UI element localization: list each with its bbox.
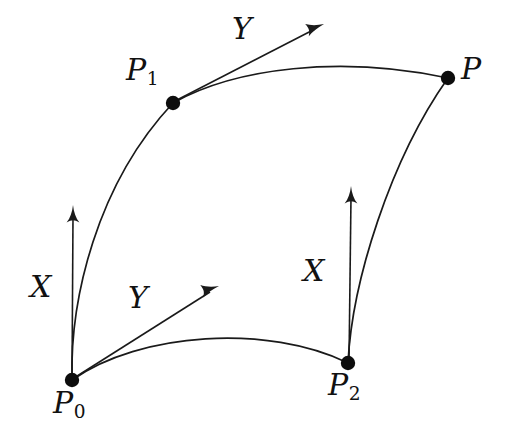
curve-P2-P <box>348 78 448 363</box>
vector-label-Y-at-P0: Y <box>128 283 148 313</box>
vector-label-X-at-P0: X <box>30 272 51 302</box>
node-dot-P <box>441 71 455 85</box>
point-label-P2: P2 <box>328 370 361 404</box>
vector-label-X-at-P2: X <box>303 256 324 286</box>
vector-Y-at-P1-arrowhead <box>305 24 324 36</box>
curve-P0-P2 <box>72 338 348 380</box>
vector-X-at-P0-shaft <box>72 216 73 379</box>
point-label-P0: P0 <box>53 388 86 422</box>
vector-X-at-P2-arrowhead <box>345 186 358 204</box>
vector-label-Y-at-P1: Y <box>232 14 252 44</box>
diagram-canvas: P0 P1 P2 P X Y X Y <box>0 0 510 446</box>
curve-P1-P <box>173 66 448 103</box>
point-label-P: P <box>461 54 482 88</box>
point-label-P1: P1 <box>126 55 159 89</box>
curve-P0-P1 <box>72 103 173 380</box>
diagram-svg <box>0 0 510 446</box>
vector-X-at-P0-arrowhead <box>67 205 80 223</box>
node-dot-P1 <box>166 96 180 110</box>
